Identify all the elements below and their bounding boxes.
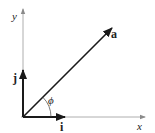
vector-diagram: y x j i a ϕ [0, 0, 155, 133]
vector-a [23, 28, 112, 117]
x-axis-label: x [136, 120, 142, 132]
vector-i-label: i [60, 120, 64, 133]
angle-phi-label: ϕ [48, 94, 54, 106]
y-axis-label: y [11, 10, 17, 22]
vector-a-label: a [111, 27, 117, 41]
vector-j-label: j [12, 71, 17, 85]
